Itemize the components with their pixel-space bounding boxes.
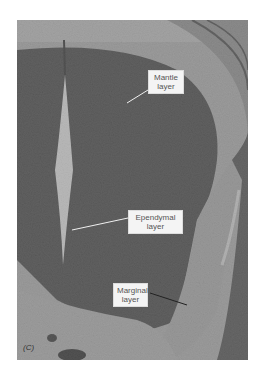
- ependymal-layer-label-line2: layer: [132, 222, 179, 231]
- marginal-layer-label-line1: Marginal: [117, 286, 144, 295]
- panel-label: (C): [23, 343, 34, 352]
- mantle-layer-label-line1: Mantle: [152, 73, 180, 82]
- mantle-layer-label: Mantle layer: [148, 70, 184, 94]
- tissue-section-drawing: [17, 20, 248, 360]
- marginal-layer-label: Marginal layer: [113, 283, 148, 307]
- mantle-layer-label-line2: layer: [152, 82, 180, 91]
- ependymal-layer-label-line1: Ependymal: [132, 213, 179, 222]
- marginal-layer-label-line2: layer: [117, 295, 144, 304]
- micrograph: [17, 20, 248, 360]
- ependymal-layer-label: Ependymal layer: [128, 210, 183, 234]
